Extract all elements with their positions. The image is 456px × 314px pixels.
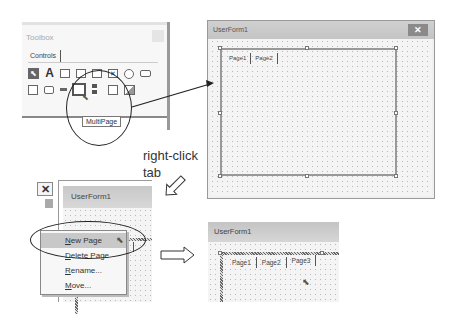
resize-handle[interactable]	[218, 174, 222, 178]
menu-item-move[interactable]: Move...	[41, 278, 126, 293]
resize-handle[interactable]	[320, 251, 324, 255]
close-icon[interactable]: ✕	[37, 182, 53, 196]
resize-handle[interactable]	[218, 111, 222, 115]
tab-row: Page1 Page2 Page3	[227, 257, 316, 268]
close-button[interactable]: ✕	[408, 24, 428, 36]
commandbutton-icon[interactable]	[44, 86, 54, 94]
optionbutton-icon[interactable]	[124, 69, 134, 79]
userform-title: UserForm1	[63, 186, 152, 208]
toolbox-right-border	[167, 22, 170, 130]
resize-handle[interactable]	[218, 251, 222, 255]
annotation-label: right-click tab	[143, 147, 198, 181]
userform-title: UserForm1	[208, 222, 339, 242]
resize-handle[interactable]	[218, 46, 222, 50]
menu-item-rename[interactable]: Rename...	[41, 263, 126, 278]
highlight-oval	[30, 221, 146, 259]
menu-label: ename...	[71, 266, 102, 275]
tab-page2[interactable]: Page2	[251, 53, 277, 64]
tab-page3[interactable]: Page3	[287, 255, 317, 266]
tab-row: Page1 Page2	[225, 53, 278, 64]
multipage-control[interactable]: Page1 Page2	[220, 48, 397, 176]
menu-label: ove...	[72, 281, 92, 290]
tab-page1[interactable]: Page1	[225, 53, 251, 64]
right-arrow-icon	[160, 246, 196, 264]
toolbox-top-border	[22, 22, 170, 25]
resize-handle[interactable]	[305, 46, 309, 50]
frame-icon[interactable]	[28, 85, 38, 95]
toolbox-title: Toolbox	[26, 33, 54, 42]
label-icon[interactable]: A	[44, 68, 55, 79]
userform-window: UserForm1 ✕ Page1 Page2	[207, 20, 435, 199]
annotation-line2: tab	[143, 164, 198, 181]
toolbox-fragment	[45, 199, 53, 208]
selection-border	[220, 252, 223, 302]
resize-handle[interactable]	[305, 174, 309, 178]
userform-title: UserForm1	[208, 21, 434, 39]
tabstrip-icon[interactable]	[60, 88, 67, 91]
tab-page1[interactable]: Page1	[227, 257, 257, 268]
highlight-circle	[66, 70, 132, 146]
tab-divider	[28, 62, 158, 63]
select-objects-icon[interactable]: ⬉	[28, 68, 39, 79]
textbox-icon[interactable]	[60, 69, 70, 78]
tab-controls[interactable]: Controls	[30, 50, 61, 62]
resize-handle[interactable]	[394, 111, 398, 115]
toolbox-scroll-thumb[interactable]	[152, 30, 164, 42]
tab-page2[interactable]: Page2	[257, 257, 287, 268]
togglebutton-icon[interactable]	[140, 70, 151, 77]
annotation-line1: right-click	[143, 147, 198, 164]
resize-handle[interactable]	[394, 46, 398, 50]
resize-handle[interactable]	[394, 174, 398, 178]
accel-key: M	[65, 281, 72, 290]
userform-window-result: UserForm1 Page1 Page2 Page3	[208, 222, 339, 302]
mouse-cursor-icon: ⬉	[302, 277, 310, 287]
